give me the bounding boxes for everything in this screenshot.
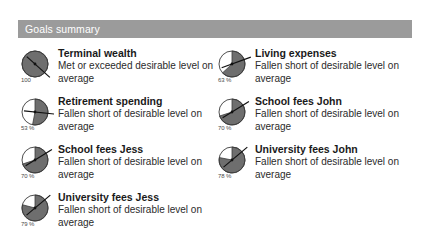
panel-title: Goals summary <box>18 20 100 38</box>
goal-gauge-value: 79 % <box>21 221 34 227</box>
goal-description: Fallen short of desirable level on avera… <box>255 60 413 85</box>
goal-item: 79 %University fees JessFallen short of … <box>18 190 218 231</box>
goal-gauge-icon: 79 % <box>18 191 54 227</box>
goal-gauge-icon: 70 % <box>215 95 251 131</box>
goal-description: Fallen short of desirable level on avera… <box>255 108 413 133</box>
goal-gauge-value: 70 % <box>218 125 231 131</box>
goal-title: School fees Jess <box>58 143 216 156</box>
goal-text: Living expensesFallen short of desirable… <box>251 46 413 85</box>
goal-gauge-value: 100 <box>21 77 31 83</box>
goals-column-left: 100Terminal wealthMet or exceeded desira… <box>18 46 218 231</box>
goal-text: Terminal wealthMet or exceeded desirable… <box>54 46 216 85</box>
goal-item: 53 %Retirement spendingFallen short of d… <box>18 94 218 138</box>
goal-title: University fees Jess <box>58 191 216 204</box>
goal-item: 70 %School fees JohnFallen short of desi… <box>215 94 415 138</box>
goal-gauge-value: 70 % <box>21 173 34 179</box>
goal-gauge-icon: 63 % <box>215 47 251 83</box>
goal-item: 100Terminal wealthMet or exceeded desira… <box>18 46 218 90</box>
goal-text: University fees JessFallen short of desi… <box>54 190 216 229</box>
goal-item: 70 %School fees JessFallen short of desi… <box>18 142 218 186</box>
goal-gauge-value: 78 % <box>218 173 231 179</box>
goal-title: Retirement spending <box>58 95 216 108</box>
goal-description: Fallen short of desirable level on avera… <box>58 108 216 133</box>
goals-column-right: 63 %Living expensesFallen short of desir… <box>215 46 415 190</box>
goal-text: University fees JohnFallen short of desi… <box>251 142 413 181</box>
goal-description: Fallen short of desirable level on avera… <box>58 204 216 229</box>
goal-gauge-icon: 70 % <box>18 143 54 179</box>
goal-gauge-value: 53 % <box>21 125 34 131</box>
goal-text: School fees JohnFallen short of desirabl… <box>251 94 413 133</box>
goal-title: University fees John <box>255 143 413 156</box>
panel-header-bar: Goals summary <box>18 20 412 38</box>
goal-description: Fallen short of desirable level on avera… <box>58 156 216 181</box>
goal-description: Fallen short of desirable level on avera… <box>255 156 413 181</box>
goal-gauge-value: 63 % <box>218 77 231 83</box>
goal-text: Retirement spendingFallen short of desir… <box>54 94 216 133</box>
goal-title: Living expenses <box>255 47 413 60</box>
goal-item: 78 %University fees JohnFallen short of … <box>215 142 415 186</box>
goal-text: School fees JessFallen short of desirabl… <box>54 142 216 181</box>
goal-gauge-icon: 100 <box>18 47 54 83</box>
goal-item: 63 %Living expensesFallen short of desir… <box>215 46 415 90</box>
goal-description: Met or exceeded desirable level on avera… <box>58 60 216 85</box>
goal-gauge-icon: 78 % <box>215 143 251 179</box>
goal-gauge-icon: 53 % <box>18 95 54 131</box>
goal-title: School fees John <box>255 95 413 108</box>
goals-summary-panel: Goals summary 100Terminal wealthMet or e… <box>0 0 430 231</box>
goal-title: Terminal wealth <box>58 47 216 60</box>
